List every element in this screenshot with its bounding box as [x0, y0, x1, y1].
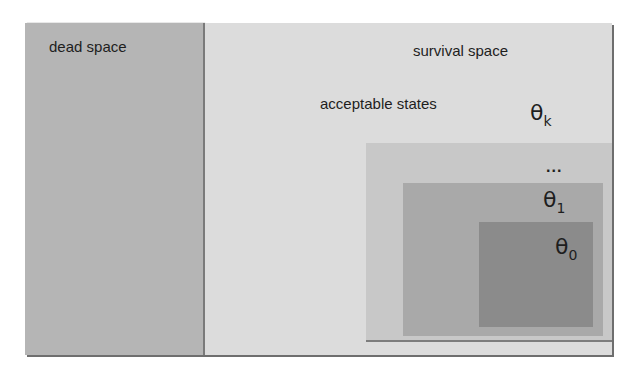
- theta-0-label: θ0: [555, 236, 577, 262]
- ellipsis-label: ...: [546, 158, 562, 176]
- acceptable-states-label: acceptable states: [320, 95, 437, 112]
- theta-1-label: θ1: [543, 189, 565, 215]
- dead-space-region: dead space: [25, 23, 203, 355]
- dead-space-label: dead space: [49, 38, 127, 55]
- theta-k-label: θk: [530, 102, 552, 128]
- survival-space-label: survival space: [413, 42, 508, 59]
